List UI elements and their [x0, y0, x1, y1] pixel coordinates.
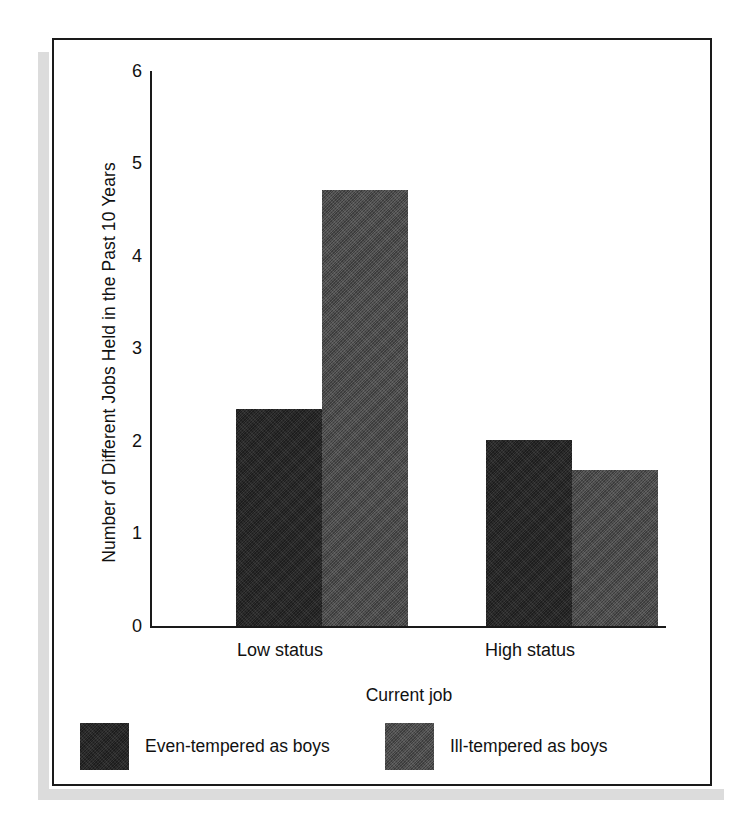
y-tick-label-6: 6: [114, 62, 142, 80]
y-tick-label-0: 0: [114, 617, 142, 635]
figure-shadow-left: [38, 52, 49, 800]
chart-legend: Even-tempered as boys Ill-tempered as bo…: [54, 722, 714, 774]
figure-frame: Number of Different Jobs Held in the Pas…: [52, 38, 712, 786]
x-axis-title: Current job: [152, 685, 666, 706]
x-axis-line: [150, 626, 666, 628]
x-tick-label-low-status: Low status: [237, 640, 323, 661]
bar-low-status-ill-tempered: [322, 190, 408, 626]
legend-item-ill-tempered: Ill-tempered as boys: [385, 722, 608, 770]
y-tick-label-3: 3: [114, 339, 142, 357]
bar-low-status-even-tempered: [236, 409, 322, 626]
legend-swatch-even-tempered: [80, 723, 129, 770]
legend-item-even-tempered: Even-tempered as boys: [80, 722, 330, 770]
bar-high-status-even-tempered: [486, 440, 572, 626]
y-tick-label-4: 4: [114, 247, 142, 265]
y-axis-tick-labels: 6 5 4 3 2 1 0: [104, 40, 142, 628]
bar-high-status-ill-tempered: [572, 470, 658, 626]
chart-plot-area: Number of Different Jobs Held in the Pas…: [54, 40, 714, 788]
y-tick-label-5: 5: [114, 154, 142, 172]
bars-layer: [152, 71, 666, 626]
legend-label-even-tempered: Even-tempered as boys: [145, 736, 330, 757]
y-tick-label-1: 1: [114, 524, 142, 542]
x-tick-label-high-status: High status: [485, 640, 575, 661]
legend-swatch-ill-tempered: [385, 723, 434, 770]
y-tick-label-2: 2: [114, 432, 142, 450]
legend-label-ill-tempered: Ill-tempered as boys: [450, 736, 608, 757]
figure-shadow-bottom: [38, 789, 724, 800]
